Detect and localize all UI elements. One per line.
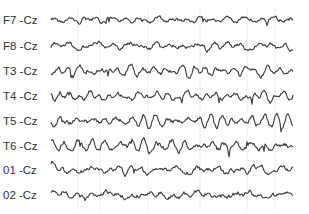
channel-label-o2: 02 -Cz — [3, 189, 37, 201]
grid-lines — [78, 8, 275, 210]
eeg-trace-t6-cz — [51, 138, 293, 157]
eeg-chart: F7 -Cz F8 -Cz T3 -Cz T4 -Cz T5 -Cz T6 -C… — [0, 0, 309, 214]
eeg-trace-f7-cz — [51, 16, 293, 26]
eeg-trace-t3-cz — [51, 64, 293, 78]
channel-label-t6: T6 -Cz — [3, 140, 38, 152]
channel-label-t3: T3 -Cz — [3, 65, 38, 77]
channel-label-f8: F8 -Cz — [3, 40, 38, 52]
eeg-trace-t5-cz — [51, 113, 293, 132]
eeg-traces — [51, 16, 293, 201]
channel-label-o1: 01 -Cz — [3, 164, 37, 176]
eeg-trace-f8-cz — [51, 41, 293, 52]
eeg-trace-t4-cz — [51, 90, 293, 104]
eeg-trace-01-cz — [51, 161, 293, 176]
channel-label-f7: F7 -Cz — [3, 14, 38, 26]
channel-labels: F7 -Cz F8 -Cz T3 -Cz T4 -Cz T5 -Cz T6 -C… — [3, 14, 38, 201]
channel-label-t4: T4 -Cz — [3, 90, 38, 102]
channel-label-t5: T5 -Cz — [3, 115, 38, 127]
eeg-trace-02-cz — [51, 190, 293, 201]
